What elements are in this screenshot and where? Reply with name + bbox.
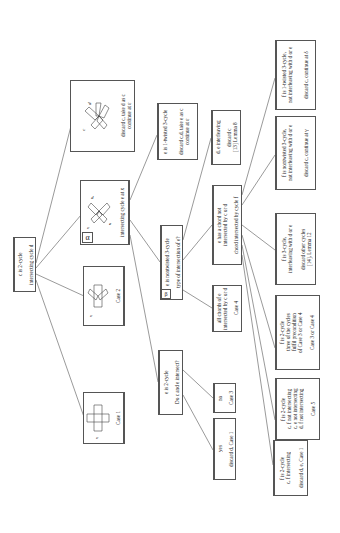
f-2cycle-not-line2: Case 5 [306,379,319,439]
f-nontwisted-line2: discard c, continue at γ [296,117,315,189]
f-2cycle-intersecting-node: f is 2-cycle c, f intersecting discard d… [273,440,308,496]
f-2cycle-inter-line1: f is 2-cycle c, f intersecting [274,441,294,495]
cycle-diagram-icon: c [84,267,112,325]
case1-node: c Case 1 [83,392,125,444]
beta-node: e is nontwisted 3-cycle type of intersec… [160,225,183,300]
case1-label: Case 1 [112,393,124,443]
svg-text:e: e [109,221,112,226]
no-node: no Case 3 [213,383,236,413]
all-chords-line2: Case 4 [230,286,241,331]
yes-node: yes discard d, Case 1 [213,418,236,480]
f-2cycle-not-node: f is 2-cycle c, f not intersecting c, e … [275,378,320,440]
e-1twisted-node: e is 1-twisted 3-cycle discard c,d, take… [157,103,198,160]
svg-text:c: c [90,313,93,318]
svg-text:c: c [96,435,99,440]
f-2cycle-three-line1: f is 2-cycle three of the cycles fulfil … [276,296,304,369]
yes-line2: discard d, Case 1 [225,419,236,479]
cycle-figure-dce: α d c e [81,181,115,244]
all-chords-node: all chords of e intersected by c or d Ca… [212,285,242,332]
svg-text:d: d [87,102,92,105]
f-1twisted-line1: f is 1-twisted 3-cycle, not interleaving… [276,41,296,109]
top-figure-label: discard c, take d as c continue at ε [117,81,135,151]
has-chord-node: e has a chord not intersected by c or d … [212,185,242,265]
f-1twisted-node: f is 1-twisted 3-cycle, not interleaving… [275,40,316,110]
alpha-node: α d c e intersecting cycle e at x [80,180,130,245]
no-line2: Case 3 [225,384,236,412]
e-2cycle-line1: e is 2-cycle [159,351,171,414]
e-1twisted-line2: discard c,d, take e as c continue at ε [170,104,197,159]
all-chords-line1: all chords of e intersected by c or d [213,286,230,331]
cycle-figure-case2: c [84,267,112,325]
root-line1: c is 2-cycle [14,238,25,291]
has-chord-line1: e has a chord not intersected by c or d [213,186,230,264]
case2-label: Case 2 [112,267,124,325]
cycle-diagram-icon: d c [71,81,117,151]
has-chord-line2: chord intersected by cycle f [230,186,241,264]
svg-text:c: c [81,128,86,131]
case2-node: c Case 2 [83,266,125,326]
f-2cycle-not-line1: f is 2-cycle c, f not intersecting c, e … [276,379,306,439]
cycle-diagram-icon: c [84,393,112,443]
top-figure-node: d c discard c, take d as c continue at ε [70,80,135,152]
root-line2: intersecting cycle d [25,238,36,291]
f-2cycle-three-node: f is 2-cycle three of the cycles fulfil … [275,295,320,370]
f-3cycle-inter-line2: discard other cycles [14], Lemma 12 [296,214,315,284]
e-2cycle-node: e is 2-cycle Do c and e intersect? [158,350,183,415]
de-interleaving-line1: d, e interleaving [212,111,223,164]
f-2cycle-inter-line2: discard d, e, Case 1 [294,441,307,495]
beta-line1: e is nontwisted 3-cycle [164,239,170,287]
cycle-figure-dc: d c [71,81,117,151]
no-line1: no [214,384,225,412]
f-3cycle-interleaving-node: f is 3-cycle, interleaving with d or e d… [275,213,316,285]
yes-line1: yes [214,419,225,479]
e-1twisted-line1: e is 1-twisted 3-cycle [158,104,170,159]
e-2cycle-line2: Do c and e intersect? [171,351,183,414]
f-nontwisted-node: f is nontwisted 3-cycle, not interleavin… [275,116,316,190]
de-interleaving-line2: discard c [13] Lemma 8 [223,111,240,164]
cycle-figure-case1: c [84,393,112,443]
f-1twisted-line2: discard c, continue at δ [296,41,315,109]
f-3cycle-inter-line1: f is 3-cycle, interleaving with d or e [276,214,296,284]
beta-line2: type of intersection of e? [172,226,183,299]
alpha-label: intersecting cycle e at x [115,181,129,244]
de-interleaving-node: d, e interleaving discard c [13] Lemma 8 [211,110,241,165]
cycle-diagram-icon: d c e [83,185,115,237]
svg-text:d: d [91,195,94,200]
svg-text:c: c [87,225,90,230]
beta-marker: β [161,289,171,299]
root-node: c is 2-cycle intersecting cycle d [13,237,36,292]
f-nontwisted-line1: f is nontwisted 3-cycle, not interleavin… [276,117,296,189]
f-2cycle-three-line2: Case 3 or Case 4 [304,296,319,369]
